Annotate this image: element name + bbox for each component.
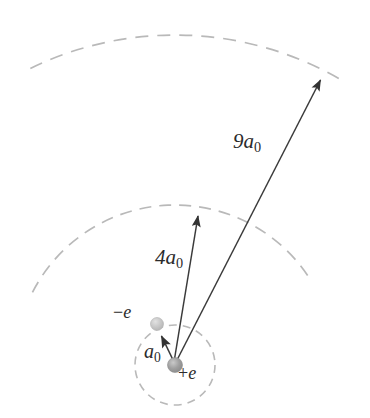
label-minus-e-symbol: e — [123, 302, 131, 322]
label-minus-sign: − — [113, 302, 123, 322]
label-4a0-symbol: a — [166, 245, 177, 269]
orbit-diagram-canvas — [0, 0, 370, 418]
label-electron-charge: −e — [113, 303, 131, 321]
label-nucleus-charge: +e — [178, 364, 196, 382]
label-4a0-coefficient: 4 — [155, 245, 166, 269]
orbit-arc-9a0 — [30, 35, 340, 79]
label-plus-sign: + — [178, 363, 188, 383]
electron-particle — [151, 318, 164, 331]
bohr-orbit-figure: 9a0 4a0 a0 −e +e — [0, 0, 370, 418]
radius-arrow-4a0 — [174, 216, 198, 362]
label-9a0: 9a0 — [233, 131, 261, 154]
label-a0-subscript: 0 — [154, 350, 161, 365]
label-9a0-coefficient: 9 — [233, 129, 244, 153]
label-plus-e-symbol: e — [188, 363, 196, 383]
label-4a0-subscript: 0 — [176, 255, 183, 271]
label-a0-symbol: a — [144, 340, 154, 362]
label-a0: a0 — [144, 341, 161, 364]
label-9a0-symbol: a — [244, 129, 255, 153]
label-9a0-subscript: 0 — [254, 139, 261, 155]
label-4a0: 4a0 — [155, 247, 183, 270]
